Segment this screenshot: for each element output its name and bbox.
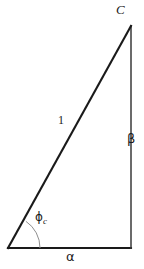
triangle-hypotenuse-line [8, 26, 131, 248]
right-triangle-figure: C β α 1 ϕc [0, 0, 144, 269]
side-label-beta: β [127, 132, 135, 145]
triangle-drawing [0, 0, 144, 269]
vertex-label-c: C [116, 3, 125, 16]
angle-label-phi-symbol: ϕ [35, 210, 43, 224]
side-label-hypotenuse: 1 [58, 114, 64, 126]
angle-label-phi-subscript: c [43, 216, 47, 226]
side-label-alpha: α [66, 250, 75, 263]
angle-label-phi-c: ϕc [35, 211, 47, 226]
